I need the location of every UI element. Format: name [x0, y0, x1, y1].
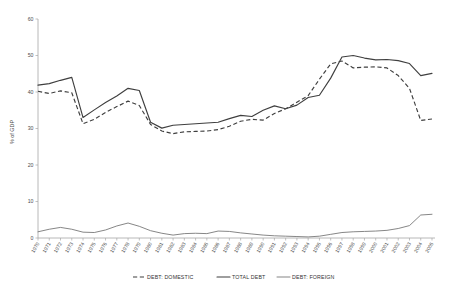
y-axis-title: % of GDP: [9, 120, 15, 144]
legend-label-debt-foreign: DEBT: FOREIGN: [292, 274, 335, 280]
y-axis: 0102030405060: [28, 16, 38, 241]
series-line-debt-foreign: [38, 214, 432, 237]
line-chart: 0102030405060 19701971197219731974197519…: [0, 0, 449, 291]
x-tick-label: 1975: [86, 241, 97, 254]
x-tick-label: 1972: [52, 241, 63, 254]
x-tick-label: 1986: [210, 241, 221, 254]
x-tick-label: 2002: [390, 241, 401, 254]
x-tick-label: 1976: [97, 241, 108, 254]
y-tick-label: 0: [31, 235, 34, 241]
x-tick-label: 2003: [401, 241, 412, 254]
x-tick-label: 1988: [232, 241, 243, 254]
x-tick-label: 1998: [345, 241, 356, 254]
legend-label-debt-domestic: DEBT: DOMESTIC: [147, 274, 194, 280]
x-tick-label: 1979: [131, 241, 142, 254]
chart-legend: DEBT: DOMESTICTOTAL DEBTDEBT: FOREIGN: [133, 274, 335, 280]
x-tick-label: 1973: [63, 241, 74, 254]
x-tick-label: 1992: [277, 241, 288, 254]
x-axis: 1970197119721973197419751976197719781979…: [30, 238, 435, 254]
x-tick-label: 1970: [30, 241, 41, 254]
x-tick-label: 1977: [109, 241, 120, 254]
x-tick-label: 1983: [176, 241, 187, 254]
x-tick-label: 2004: [412, 241, 423, 254]
x-tick-label: 2000: [367, 241, 378, 254]
x-tick-label: 1982: [165, 241, 176, 254]
y-tick-label: 20: [28, 162, 34, 168]
x-tick-label: 1971: [41, 241, 52, 254]
y-tick-label: 50: [28, 52, 34, 58]
x-tick-label: 1991: [266, 241, 277, 254]
y-tick-label: 10: [28, 198, 34, 204]
x-tick-label: 1985: [199, 241, 210, 254]
x-tick-label: 1989: [244, 241, 255, 254]
x-tick-label: 2001: [379, 241, 390, 254]
series-line-debt-domestic: [38, 61, 432, 134]
y-tick-label: 40: [28, 89, 34, 95]
x-tick-label: 1990: [255, 241, 266, 254]
x-tick-label: 1994: [300, 241, 311, 254]
x-tick-label: 1987: [221, 241, 232, 254]
x-tick-label: 1995: [311, 241, 322, 254]
x-tick-label: 1974: [75, 241, 86, 254]
y-tick-label: 30: [28, 125, 34, 131]
y-tick-label: 60: [28, 16, 34, 22]
x-tick-label: 1980: [142, 241, 153, 254]
chart-container: 0102030405060 19701971197219731974197519…: [0, 0, 449, 291]
legend-label-total-debt: TOTAL DEBT: [232, 274, 266, 280]
x-tick-label: 1981: [154, 241, 165, 254]
x-tick-label: 2005: [424, 241, 435, 254]
x-tick-label: 1984: [187, 241, 198, 254]
x-tick-label: 1997: [334, 241, 345, 254]
x-tick-label: 1978: [120, 241, 131, 254]
x-tick-label: 1996: [322, 241, 333, 254]
data-series-group: [38, 56, 432, 237]
x-tick-label: 1999: [356, 241, 367, 254]
x-tick-label: 1993: [289, 241, 300, 254]
